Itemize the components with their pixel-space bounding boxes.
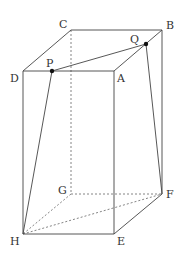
label-H: H — [10, 235, 20, 248]
label-E: E — [117, 235, 125, 248]
edge-EF — [114, 194, 162, 234]
label-P: P — [46, 57, 54, 70]
label-D: D — [10, 72, 19, 85]
label-A: A — [116, 72, 126, 85]
segment-QF — [146, 44, 162, 194]
segment-PH — [23, 71, 52, 234]
edge-HF — [23, 194, 162, 234]
label-C: C — [59, 18, 67, 31]
label-F: F — [166, 188, 174, 201]
label-Q: Q — [130, 33, 139, 46]
point-Q-dot — [144, 42, 148, 46]
label-B: B — [166, 19, 174, 32]
segment-PQ — [52, 44, 146, 71]
label-G: G — [58, 184, 67, 197]
prism-diagram: C B Q P D A G F H E — [0, 0, 185, 262]
edge-GH — [23, 194, 71, 234]
